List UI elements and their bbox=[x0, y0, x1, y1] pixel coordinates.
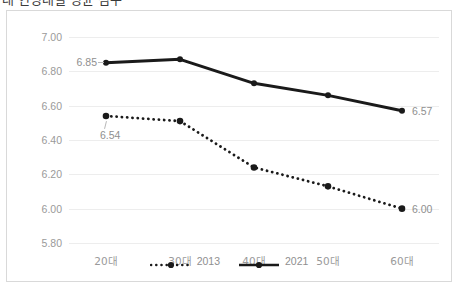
data-point[interactable] bbox=[177, 56, 183, 62]
legend-marker-dotted-icon bbox=[150, 256, 192, 266]
data-point-label: 6.54 bbox=[100, 129, 120, 141]
legend-marker-solid-icon bbox=[238, 256, 280, 266]
chart-container: 7.006.806.606.406.206.005.80 20대30대40대50… bbox=[6, 10, 452, 282]
y-axis-tick-label: 6.60 bbox=[42, 100, 62, 112]
page-title: 대 연령대별 평균 점수 bbox=[2, 0, 122, 8]
legend-item-2013[interactable]: 2013 bbox=[150, 255, 220, 267]
y-axis-tick-label: 7.00 bbox=[42, 31, 62, 43]
data-point[interactable] bbox=[325, 92, 331, 98]
data-point[interactable] bbox=[325, 183, 332, 190]
y-axis-tick-label: 6.80 bbox=[42, 65, 62, 77]
series-line-2013 bbox=[106, 116, 402, 209]
data-point-label: 6.57 bbox=[412, 105, 432, 117]
y-axis-tick-label: 5.80 bbox=[42, 237, 62, 249]
data-point[interactable] bbox=[399, 108, 405, 114]
data-point[interactable] bbox=[103, 113, 110, 120]
data-point[interactable] bbox=[177, 118, 184, 125]
data-point[interactable] bbox=[399, 205, 406, 212]
y-axis-tick-label: 6.00 bbox=[42, 203, 62, 215]
legend-item-2021[interactable]: 2021 bbox=[238, 255, 308, 267]
label-leader-line bbox=[98, 62, 104, 63]
gridline bbox=[69, 243, 439, 244]
series-lines bbox=[69, 37, 439, 243]
data-point[interactable] bbox=[251, 164, 258, 171]
chart-screenshot: 대 연령대별 평균 점수 7.006.806.606.406.206.005.8… bbox=[0, 0, 464, 291]
page-title-strip: 대 연령대별 평균 점수 bbox=[0, 0, 464, 9]
data-point[interactable] bbox=[251, 80, 257, 86]
y-axis-tick-label: 6.40 bbox=[42, 134, 62, 146]
plot-area: 7.006.806.606.406.206.005.80 20대30대40대50… bbox=[69, 37, 439, 243]
legend-label-2013: 2013 bbox=[197, 255, 220, 267]
y-axis-tick-label: 6.20 bbox=[42, 168, 62, 180]
chart-legend: 2013 2021 bbox=[7, 255, 451, 267]
legend-label-2021: 2021 bbox=[285, 255, 308, 267]
data-point-label: 6.00 bbox=[412, 203, 432, 215]
data-point-label: 6.85 bbox=[77, 56, 97, 68]
